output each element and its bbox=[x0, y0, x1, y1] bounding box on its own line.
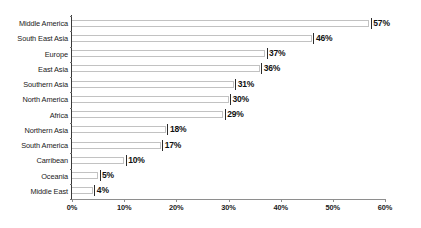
bar-value-label: 30% bbox=[233, 93, 249, 106]
bar-row: 57% bbox=[72, 16, 385, 31]
bar-end-marker bbox=[313, 33, 314, 44]
bar-row: 29% bbox=[72, 108, 385, 123]
bar-value-label: 4% bbox=[97, 184, 109, 197]
x-axis-tick bbox=[281, 199, 282, 202]
bar-value-label: 36% bbox=[264, 62, 280, 75]
category-label: Europe bbox=[45, 47, 68, 62]
x-axis-tick bbox=[229, 199, 230, 202]
bar-row: 5% bbox=[72, 169, 385, 184]
y-axis-tick bbox=[70, 62, 72, 63]
y-axis-tick bbox=[70, 169, 72, 170]
category-label: Middle East bbox=[30, 184, 68, 199]
bar-value-label: 18% bbox=[170, 123, 186, 136]
x-axis-tick-label: 50% bbox=[326, 203, 341, 212]
category-label: Africa bbox=[50, 108, 68, 123]
bar-row: 18% bbox=[72, 123, 385, 138]
bar-value-label: 31% bbox=[238, 78, 254, 91]
category-label: Middle America bbox=[19, 16, 68, 31]
y-axis-tick bbox=[70, 123, 72, 124]
bar-end-marker bbox=[126, 155, 127, 166]
bar bbox=[72, 35, 312, 42]
bar-row: 36% bbox=[72, 62, 385, 77]
category-label: Oceania bbox=[41, 169, 68, 184]
bar bbox=[72, 126, 166, 133]
x-axis-tick bbox=[124, 199, 125, 202]
category-label: Carribean bbox=[36, 153, 68, 168]
bar-row: 10% bbox=[72, 153, 385, 168]
bar-rows: 57%46%37%36%31%30%29%18%17%10%5%4% bbox=[72, 16, 385, 199]
bar-value-label: 5% bbox=[102, 169, 114, 182]
bar bbox=[72, 20, 369, 27]
x-axis-tick-label: 10% bbox=[117, 203, 132, 212]
bar bbox=[72, 142, 161, 149]
y-axis-tick bbox=[70, 47, 72, 48]
bar-value-label: 46% bbox=[316, 32, 332, 45]
bar-row: 4% bbox=[72, 184, 385, 199]
bar bbox=[72, 111, 223, 118]
y-axis-tick bbox=[70, 138, 72, 139]
category-label: North America bbox=[22, 92, 68, 107]
x-axis-tick-label: 0% bbox=[67, 203, 77, 212]
category-label: Southern Asia bbox=[23, 77, 68, 92]
bar-end-marker bbox=[261, 63, 262, 74]
bar-row: 31% bbox=[72, 77, 385, 92]
category-label: Northern Asia bbox=[25, 123, 68, 138]
y-axis-tick bbox=[70, 92, 72, 93]
bar bbox=[72, 172, 98, 179]
bar-value-label: 10% bbox=[128, 154, 144, 167]
bar bbox=[72, 96, 229, 103]
x-axis-tick-label: 60% bbox=[378, 203, 393, 212]
x-axis-tick bbox=[385, 199, 386, 202]
y-axis-tick bbox=[70, 77, 72, 78]
bar-end-marker bbox=[225, 109, 226, 120]
bar bbox=[72, 50, 265, 57]
bar-row: 46% bbox=[72, 31, 385, 46]
category-label: South America bbox=[21, 138, 68, 153]
y-axis-tick bbox=[70, 108, 72, 109]
category-label: East Asia bbox=[38, 62, 68, 77]
bar-row: 37% bbox=[72, 47, 385, 62]
x-axis-tick-label: 30% bbox=[221, 203, 236, 212]
y-axis-tick bbox=[70, 153, 72, 154]
bar-end-marker bbox=[167, 124, 168, 135]
y-axis-tick bbox=[70, 16, 72, 17]
x-axis-tick bbox=[72, 199, 73, 202]
bar-value-label: 17% bbox=[165, 139, 181, 152]
bar bbox=[72, 157, 124, 164]
plot-area: 57%46%37%36%31%30%29%18%17%10%5%4% bbox=[72, 16, 385, 199]
y-axis-tick bbox=[70, 31, 72, 32]
bar-row: 30% bbox=[72, 92, 385, 107]
y-axis-tick bbox=[70, 184, 72, 185]
bar-value-label: 29% bbox=[227, 108, 243, 121]
x-axis-tick-label: 40% bbox=[273, 203, 288, 212]
x-axis-tick bbox=[333, 199, 334, 202]
bar-chart: 57%46%37%36%31%30%29%18%17%10%5%4% Middl… bbox=[0, 0, 421, 228]
bar-value-label: 37% bbox=[269, 47, 285, 60]
bar-end-marker bbox=[371, 18, 372, 29]
bar bbox=[72, 65, 260, 72]
x-axis-tick bbox=[176, 199, 177, 202]
bar bbox=[72, 81, 234, 88]
bar-end-marker bbox=[230, 94, 231, 105]
bar-end-marker bbox=[162, 140, 163, 151]
bar bbox=[72, 187, 93, 194]
x-axis-tick-label: 20% bbox=[169, 203, 184, 212]
bar-end-marker bbox=[100, 170, 101, 181]
bar-value-label: 57% bbox=[373, 17, 389, 30]
category-label: South East Asia bbox=[17, 31, 68, 46]
bar-row: 17% bbox=[72, 138, 385, 153]
bar-end-marker bbox=[267, 48, 268, 59]
bar-end-marker bbox=[94, 185, 95, 196]
bar-end-marker bbox=[235, 79, 236, 90]
